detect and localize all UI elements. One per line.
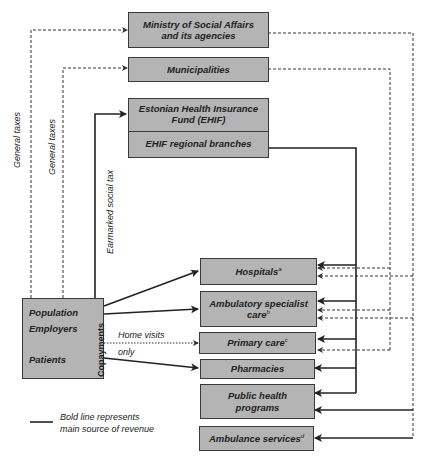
patients-label: Patients xyxy=(29,354,66,365)
ministry-label-1: Ministry of Social Affairs xyxy=(143,19,254,30)
municipalities-box: Municipalities xyxy=(128,57,269,82)
ministry-label-2: and its agencies xyxy=(143,30,254,41)
only-label: only xyxy=(118,347,135,357)
employers-label: Employers xyxy=(29,323,78,334)
ehif-regional-label: EHIF regional branches xyxy=(128,138,269,149)
public-health-box: Public healthprograms xyxy=(200,384,315,419)
legend-text-1: Bold line represents xyxy=(60,412,140,422)
public-health-label-2: programs xyxy=(228,402,287,413)
primary-care-label: Primary care xyxy=(227,337,285,348)
ambulance-note: d xyxy=(301,433,304,439)
earmarked-tax-label: Earmarked social tax xyxy=(105,170,115,254)
ehif-label-2: Fund (EHIF) xyxy=(139,114,258,125)
hospitals-note: a xyxy=(278,266,281,272)
general-taxes-label-1: General taxes xyxy=(12,112,22,168)
primary-care-note: c xyxy=(285,337,288,343)
general-taxes-ministry-line xyxy=(31,30,127,298)
ministry-box: Ministry of Social Affairsand its agenci… xyxy=(128,12,269,48)
public-health-label-1: Public health xyxy=(228,390,287,401)
ambulatory-label-1: Ambulatory specialist xyxy=(209,298,308,309)
primary-care-box: Primary carec xyxy=(199,332,316,354)
ambulatory-box: Ambulatory specialistcareb xyxy=(200,291,317,327)
ambulance-label: Ambulance services xyxy=(209,433,301,444)
ehif-box: Estonian Health InsuranceFund (EHIF) xyxy=(128,98,269,158)
home-visits-label: Home visits xyxy=(118,330,165,340)
population-box: Population Employers Patients Copayments xyxy=(22,298,104,379)
copay-to-hospitals xyxy=(104,271,198,306)
hospitals-box: Hospitalsa xyxy=(200,258,317,285)
municipalities-label: Municipalities xyxy=(167,64,230,75)
ambulatory-label-2: care xyxy=(247,309,267,320)
hospitals-label: Hospitals xyxy=(235,266,278,277)
pharmacies-box: Pharmacies xyxy=(200,359,315,379)
ambulance-box: Ambulance servicesd xyxy=(199,426,314,451)
ambulatory-note: b xyxy=(267,309,270,315)
population-label: Population xyxy=(29,307,78,318)
legend-text-2: main source of revenue xyxy=(60,424,154,434)
ehif-label-1: Estonian Health Insurance xyxy=(139,103,258,114)
copay-to-ambulatory xyxy=(104,309,198,314)
copay-to-pharmacies xyxy=(104,358,198,368)
general-taxes-label-2: General taxes xyxy=(47,119,57,175)
pharmacies-label: Pharmacies xyxy=(231,363,284,374)
ehif-divider xyxy=(128,131,269,132)
copayments-label: Copayments xyxy=(96,323,106,377)
